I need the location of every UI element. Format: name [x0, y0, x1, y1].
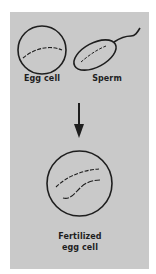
fertilized-label-line1: Fertilized — [45, 231, 115, 242]
sperm-shape — [69, 28, 140, 76]
egg-cell-label: Egg cell — [20, 73, 64, 84]
fertilized-egg-cell-shape — [47, 151, 112, 216]
sperm-label: Sperm — [86, 73, 128, 84]
arrow-down-icon — [74, 103, 84, 138]
egg-cell-shape — [18, 26, 66, 74]
fertilized-egg-cell-label: Fertilized egg cell — [45, 231, 115, 253]
fertilized-label-line2: egg cell — [45, 242, 115, 253]
